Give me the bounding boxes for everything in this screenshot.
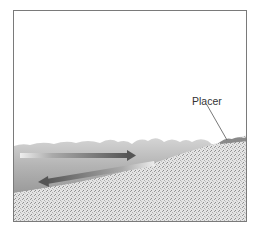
placer-leader-line bbox=[207, 105, 227, 140]
diagram-frame: Placer bbox=[13, 10, 247, 222]
diagram-canvas bbox=[14, 11, 247, 222]
placer-label: Placer bbox=[192, 95, 222, 107]
